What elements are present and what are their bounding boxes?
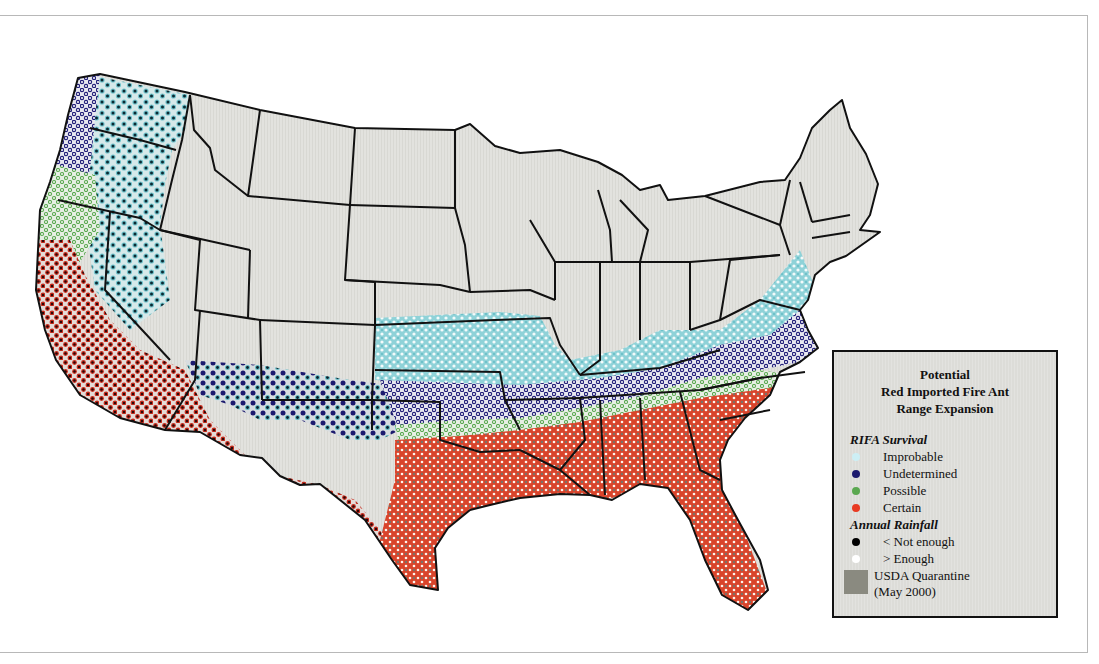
not-enough-dot-icon (852, 538, 860, 546)
legend-label: < Not enough (883, 534, 955, 550)
legend-item-undetermined: Undetermined (844, 465, 1046, 482)
quarantine-label-2: (May 2000) (874, 584, 970, 600)
map-legend: Potential Red Imported Fire Ant Range Ex… (832, 350, 1058, 618)
legend-title-line-2: Red Imported Fire Ant (844, 383, 1046, 400)
legend-item-improbable: Improbable (844, 448, 1046, 465)
legend-label: Certain (883, 500, 921, 516)
legend-item-not-enough: < Not enough (844, 533, 1046, 550)
legend-title-line-1: Potential (844, 366, 1046, 383)
legend-item-quarantine: USDA Quarantine (May 2000) (844, 568, 1046, 600)
quarantine-swatch-icon (844, 570, 868, 594)
legend-title-line-3: Range Expansion (844, 400, 1046, 417)
legend-survival-heading: RIFA Survival (844, 431, 1046, 448)
legend-label: Undetermined (883, 466, 957, 482)
quarantine-label-1: USDA Quarantine (874, 568, 970, 584)
legend-item-possible: Possible (844, 482, 1046, 499)
legend-label: Improbable (883, 449, 943, 465)
improbable-dot-icon (852, 453, 860, 461)
undetermined-dot-icon (852, 470, 860, 478)
legend-item-certain: Certain (844, 499, 1046, 516)
legend-label: Possible (883, 483, 926, 499)
certain-dot-icon (852, 504, 860, 512)
legend-rainfall-heading: Annual Rainfall (844, 516, 1046, 533)
legend-item-enough: > Enough (844, 550, 1046, 567)
legend-label: > Enough (883, 551, 934, 567)
enough-dot-icon (852, 555, 860, 563)
possible-dot-icon (852, 487, 860, 495)
